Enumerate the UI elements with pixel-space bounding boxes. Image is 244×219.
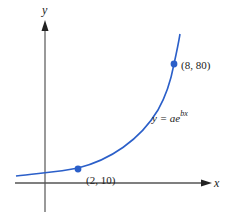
exponential-curve bbox=[16, 34, 180, 176]
point-label-2-10: (2, 10) bbox=[86, 174, 116, 187]
exponential-diagram: y x (2, 10) (8, 80) y = aebx bbox=[0, 0, 244, 219]
x-axis-arrow-icon bbox=[201, 180, 212, 187]
y-axis-label: y bbox=[41, 3, 48, 17]
equation-exponent: bx bbox=[180, 109, 188, 118]
y-axis-arrow-icon bbox=[42, 20, 49, 31]
equation-label: y = aebx bbox=[151, 109, 188, 124]
x-axis-label: x bbox=[213, 176, 220, 190]
equation-base: y = ae bbox=[151, 112, 180, 124]
point-8-80 bbox=[171, 61, 178, 68]
point-2-10 bbox=[75, 166, 82, 173]
point-label-8-80: (8, 80) bbox=[181, 59, 211, 72]
